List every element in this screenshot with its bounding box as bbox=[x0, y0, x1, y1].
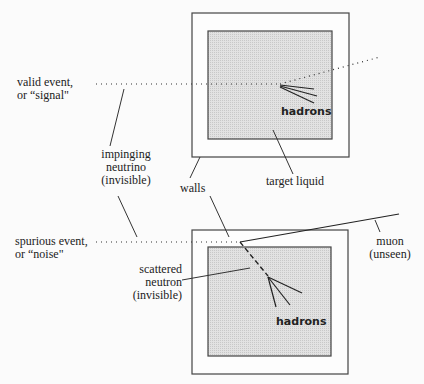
neutrino-leader-top bbox=[110, 89, 124, 146]
muon-label: muon (unseen) bbox=[365, 235, 415, 261]
top-target-liquid bbox=[208, 31, 332, 139]
hadrons-bottom-label: hadrons bbox=[276, 315, 327, 328]
muon-leader bbox=[375, 220, 380, 232]
detector-diagram bbox=[0, 0, 424, 384]
walls-leader-top bbox=[190, 157, 200, 178]
hadrons-top-label: hadrons bbox=[281, 105, 332, 118]
impinging-neutrino-label: impinging neutrino (invisible) bbox=[88, 148, 164, 187]
spurious-event-label: spurious event, or “noise" bbox=[15, 235, 88, 261]
walls-label: walls bbox=[180, 182, 205, 195]
scattered-neutron-label: scattered neutron (invisible) bbox=[120, 263, 182, 302]
top-detector bbox=[96, 13, 380, 157]
neutrino-leader-bottom bbox=[118, 196, 137, 237]
valid-event-label: valid event, or “signal" bbox=[17, 76, 73, 102]
bottom-target-liquid bbox=[208, 247, 331, 356]
target-liquid-label: target liquid bbox=[266, 175, 324, 188]
